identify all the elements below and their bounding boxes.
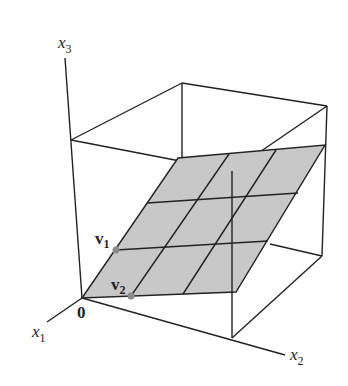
diagram-canvas: x3 x1 x2 0 v1 v2 <box>0 0 348 386</box>
v1-point <box>113 247 120 254</box>
x3-axis <box>65 58 82 298</box>
x1-label: x1 <box>31 322 46 345</box>
v1-label: v1 <box>95 229 110 251</box>
x3-label: x3 <box>57 33 72 56</box>
origin-label: 0 <box>77 303 86 322</box>
x2-label: x2 <box>289 345 304 368</box>
x2-axis <box>82 298 285 355</box>
v2-point <box>128 293 135 300</box>
